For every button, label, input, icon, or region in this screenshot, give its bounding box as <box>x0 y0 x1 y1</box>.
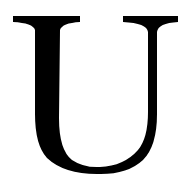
letter-u-glyph: U <box>0 0 187 187</box>
letter-u-icon <box>0 0 187 187</box>
